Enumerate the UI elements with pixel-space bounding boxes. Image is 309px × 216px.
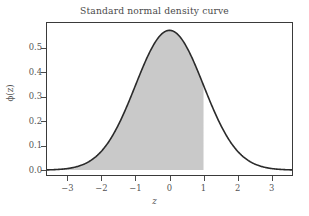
y-axis-tick-label: 0.1 xyxy=(29,140,42,150)
x-axis-tick-label: 3 xyxy=(262,183,282,193)
y-axis-tick-mark xyxy=(41,97,46,98)
y-axis-tick-label: 0.4 xyxy=(29,67,42,77)
x-axis-tick-mark xyxy=(204,176,205,181)
x-axis-tick-label: −3 xyxy=(57,183,77,193)
y-axis-tick-label: 0.5 xyxy=(29,42,42,52)
x-axis-tick-mark xyxy=(135,176,136,181)
x-axis-tick-label: −2 xyxy=(91,183,111,193)
x-axis-tick-mark xyxy=(67,176,68,181)
x-axis-tick-mark xyxy=(101,176,102,181)
x-axis-tick-label: 2 xyxy=(228,183,248,193)
y-axis-tick-mark xyxy=(41,121,46,122)
normal-density-figure: Standard normal density curve 0.00.10.20… xyxy=(0,0,309,216)
page-title: Standard normal density curve xyxy=(0,5,309,16)
y-axis-tick-labels: 0.00.10.20.30.40.5 xyxy=(14,0,42,216)
x-axis-tick-mark xyxy=(238,176,239,181)
y-axis-tick-mark xyxy=(41,170,46,171)
x-axis-tick-label: 1 xyxy=(194,183,214,193)
shaded-area-under-curve xyxy=(47,30,204,170)
y-axis-label: ϕ(z) xyxy=(5,65,15,121)
x-axis-tick-label: −1 xyxy=(125,183,145,193)
y-axis-tick-mark xyxy=(41,72,46,73)
x-axis-label: z xyxy=(0,196,309,206)
x-axis-tick-mark xyxy=(170,176,171,181)
x-axis-tick-label: 0 xyxy=(160,183,180,193)
y-axis-tick-label: 0.2 xyxy=(29,116,42,126)
plot-area xyxy=(46,22,293,176)
y-axis-tick-mark xyxy=(41,146,46,147)
y-axis-tick-label: 0.0 xyxy=(29,165,42,175)
y-axis-tick-label: 0.3 xyxy=(29,91,42,101)
plot-svg xyxy=(47,23,292,175)
y-axis-tick-mark xyxy=(41,48,46,49)
x-axis-tick-mark xyxy=(272,176,273,181)
